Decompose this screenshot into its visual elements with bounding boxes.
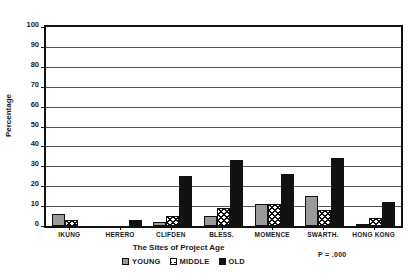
bar-old xyxy=(382,202,395,226)
y-axis-tick-mark xyxy=(41,186,45,187)
chart-legend: YOUNGMIDDLEOLD xyxy=(0,257,417,266)
y-axis-tick-label: 10 xyxy=(15,200,39,208)
legend-label: OLD xyxy=(229,257,245,266)
plot-area xyxy=(44,25,403,228)
y-axis-tick-label: 40 xyxy=(15,141,39,149)
legend-swatch-middle xyxy=(170,258,177,265)
y-axis-title-label: Percentage xyxy=(5,93,14,136)
bar-group xyxy=(198,27,249,226)
x-axis-tick-label: MOMENCE xyxy=(255,231,290,238)
y-axis-tick-mark xyxy=(41,206,45,207)
x-axis-tick-mark xyxy=(222,226,223,230)
y-axis-tick-label: 100 xyxy=(15,21,39,29)
x-axis-tick-mark xyxy=(69,226,70,230)
y-axis-tick-label: 80 xyxy=(15,61,39,69)
bar-young xyxy=(255,204,268,226)
bar-group xyxy=(350,27,401,226)
y-axis-tick-label: 30 xyxy=(15,161,39,169)
y-axis-tick-labels: 0102030405060708090100 xyxy=(16,25,42,224)
y-axis-tick-mark xyxy=(41,67,45,68)
y-axis-tick-mark xyxy=(41,87,45,88)
bar-old xyxy=(281,174,294,226)
bar-young xyxy=(204,216,217,226)
y-axis-tick-label: 50 xyxy=(15,121,39,129)
y-axis-tick-mark xyxy=(41,47,45,48)
bar-old xyxy=(230,160,243,226)
x-axis-tick-mark xyxy=(120,226,121,230)
x-axis-tick-label: BLESS. xyxy=(209,231,234,238)
p-value-annotation: P = .000 xyxy=(318,251,347,258)
bar-group xyxy=(97,27,148,226)
x-axis-tick-mark xyxy=(323,226,324,230)
x-axis-tick-label: CLIFDEN xyxy=(156,231,186,238)
y-axis-tick-mark xyxy=(41,27,45,28)
y-axis-tick-label: 90 xyxy=(15,41,39,49)
legend-swatch-old xyxy=(219,258,226,265)
bar-chart-figure: Percentage 0102030405060708090100 IKUNGH… xyxy=(0,0,417,280)
x-axis-tick-marks xyxy=(44,226,399,230)
bar-middle xyxy=(268,204,281,226)
x-axis-title: The Sites of Project Age xyxy=(0,243,417,252)
bar-middle xyxy=(217,208,230,226)
bar-group xyxy=(147,27,198,226)
y-axis-tick-mark xyxy=(41,127,45,128)
bar-group xyxy=(46,27,97,226)
y-axis-tick-mark xyxy=(41,107,45,108)
bar-group xyxy=(300,27,351,226)
legend-label: YOUNG xyxy=(132,257,161,266)
bar-young xyxy=(305,196,318,226)
y-axis-tick-mark xyxy=(41,166,45,167)
bar-group xyxy=(249,27,300,226)
bar-old xyxy=(179,176,192,226)
legend-swatch-young xyxy=(122,258,129,265)
bar-old xyxy=(331,158,344,226)
x-axis-tick-label: HERERO xyxy=(106,231,135,238)
bar-young xyxy=(52,214,65,226)
x-axis-tick-mark xyxy=(272,226,273,230)
x-axis-tick-mark xyxy=(374,226,375,230)
x-axis-tick-label: IKUNG xyxy=(58,231,80,238)
y-axis-tick-label: 70 xyxy=(15,81,39,89)
bar-middle xyxy=(318,210,331,226)
legend-entry: OLD xyxy=(219,257,245,266)
bar-middle xyxy=(166,216,179,226)
x-axis-tick-mark xyxy=(171,226,172,230)
y-axis-tick-label: 60 xyxy=(15,101,39,109)
legend-entry: YOUNG xyxy=(122,257,161,266)
y-axis-tick-label: 20 xyxy=(15,180,39,188)
legend-entry: MIDDLE xyxy=(170,257,210,266)
bar-middle xyxy=(369,218,382,226)
y-axis-tick-mark xyxy=(41,146,45,147)
x-axis-tick-label: SWARTH. xyxy=(307,231,338,238)
x-axis-tick-label: HONG KONG xyxy=(352,231,395,238)
bars-layer xyxy=(46,27,401,226)
x-axis-tick-labels: IKUNGHEREROCLIFDENBLESS.MOMENCESWARTH.HO… xyxy=(44,231,399,243)
y-axis-tick-label: 0 xyxy=(15,220,39,228)
legend-label: MIDDLE xyxy=(180,257,210,266)
